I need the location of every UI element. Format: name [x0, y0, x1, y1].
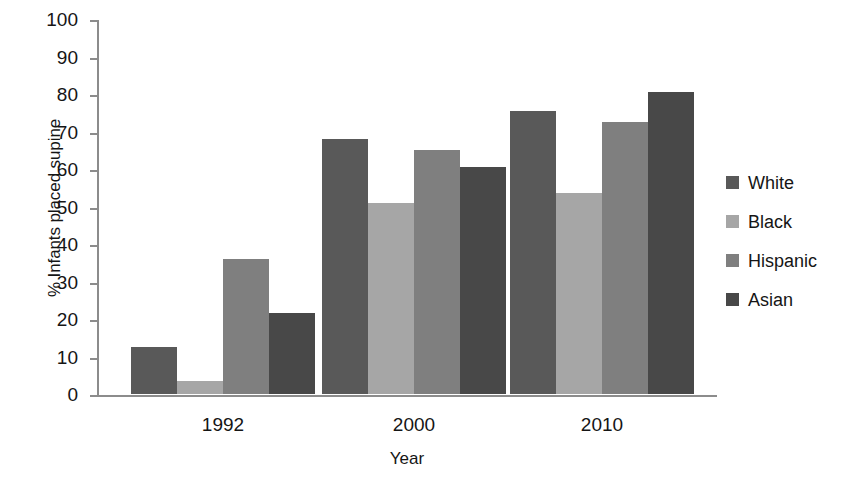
bar — [322, 139, 368, 394]
plot-area: 0102030405060708090100 199220002010 — [97, 20, 717, 395]
legend-label: White — [748, 174, 794, 192]
x-axis-tick-label: 2010 — [581, 414, 623, 436]
y-axis-tick: 20 — [90, 320, 97, 322]
y-axis-tick: 90 — [90, 58, 97, 60]
y-axis-tick-label: 90 — [57, 48, 78, 67]
y-axis-tick: 10 — [90, 358, 97, 360]
x-axis-spine — [97, 395, 717, 397]
y-axis-tick-label: 60 — [57, 160, 78, 179]
y-axis-tick-label: 50 — [57, 198, 78, 217]
y-axis-tick-label: 30 — [57, 273, 78, 292]
bar — [269, 313, 315, 394]
y-axis-spine — [97, 20, 99, 396]
y-axis-tick: 60 — [90, 170, 97, 172]
legend-label: Hispanic — [748, 252, 817, 270]
y-axis-tick: 0 — [90, 395, 97, 397]
y-axis-tick: 100 — [90, 20, 97, 22]
y-axis-tick: 80 — [90, 95, 97, 97]
chart-legend: WhiteBlackHispanicAsian — [726, 163, 817, 319]
bar — [510, 111, 556, 394]
legend-swatch-icon — [726, 176, 739, 189]
legend-item: Asian — [726, 280, 817, 319]
bar — [223, 259, 269, 394]
y-axis-tick-label: 80 — [57, 85, 78, 104]
bar — [602, 122, 648, 394]
y-axis-tick-label: 0 — [67, 385, 78, 404]
bar — [414, 150, 460, 394]
y-axis-tick-label: 70 — [57, 123, 78, 142]
y-axis-tick-label: 100 — [46, 10, 78, 29]
bar — [556, 193, 602, 394]
legend-swatch-icon — [726, 293, 739, 306]
bar — [460, 167, 506, 394]
legend-item: Black — [726, 202, 817, 241]
legend-label: Black — [748, 213, 792, 231]
y-axis-tick: 30 — [90, 283, 97, 285]
x-axis-tick-label: 1992 — [202, 414, 244, 436]
bar-chart-figure: % Infants placed supine 0102030405060708… — [0, 0, 842, 486]
y-axis-tick: 40 — [90, 245, 97, 247]
y-axis-tick-label: 40 — [57, 235, 78, 254]
legend-swatch-icon — [726, 254, 739, 267]
x-axis-tick-label: 2000 — [393, 414, 435, 436]
y-axis-tick: 70 — [90, 133, 97, 135]
y-axis-tick-label: 10 — [57, 348, 78, 367]
legend-item: White — [726, 163, 817, 202]
legend-swatch-icon — [726, 215, 739, 228]
x-axis-title: Year — [97, 449, 717, 469]
legend-item: Hispanic — [726, 241, 817, 280]
y-axis-tick-label: 20 — [57, 310, 78, 329]
bar — [177, 381, 223, 394]
bar — [368, 203, 414, 394]
y-axis-tick: 50 — [90, 208, 97, 210]
legend-label: Asian — [748, 291, 793, 309]
bar — [131, 347, 177, 394]
bar — [648, 92, 694, 394]
